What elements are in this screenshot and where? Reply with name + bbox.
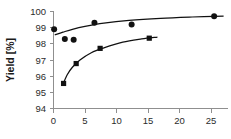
y-tick-label: 95 <box>35 87 46 98</box>
x-tick-marks <box>54 109 212 113</box>
chart-plot-area: 100 99 98 97 96 95 94 0 5 10 15 20 25 Yi… <box>0 0 231 139</box>
y-tick-label: 96 <box>35 71 46 82</box>
trend-line-upper-series <box>55 16 224 35</box>
y-tick-label: 94 <box>35 103 46 114</box>
x-tick-label: 10 <box>111 115 122 126</box>
x-tick-label: 15 <box>143 115 154 126</box>
y-tick-marks <box>50 12 54 109</box>
data-point <box>71 37 77 43</box>
x-tick-label: 0 <box>51 115 56 126</box>
data-point <box>62 36 68 42</box>
data-point <box>98 46 103 51</box>
data-point <box>147 36 152 41</box>
data-point <box>129 21 135 27</box>
x-tick-label: 25 <box>206 115 217 126</box>
data-point <box>91 20 97 26</box>
data-point <box>61 81 66 86</box>
y-tick-label: 98 <box>35 38 46 49</box>
y-tick-label: 100 <box>30 6 46 17</box>
x-tick-labels: 0 5 10 15 20 25 <box>51 115 216 126</box>
y-axis-title: Yield [%] <box>4 38 16 82</box>
y-tick-label: 99 <box>35 22 46 33</box>
y-tick-labels: 100 99 98 97 96 95 94 <box>30 6 46 114</box>
data-series-layer <box>51 13 223 86</box>
trend-line-lower-series <box>63 37 158 84</box>
x-tick-label: 5 <box>82 115 87 126</box>
x-tick-label: 20 <box>174 115 185 126</box>
data-point <box>51 26 57 32</box>
data-point <box>211 13 217 19</box>
chart-container: 100 99 98 97 96 95 94 0 5 10 15 20 25 Yi… <box>0 0 231 139</box>
data-point <box>74 61 79 66</box>
y-tick-label: 97 <box>35 55 46 66</box>
